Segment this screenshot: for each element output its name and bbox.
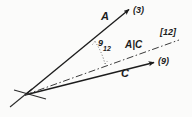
- ray-bisector-line: [25, 40, 179, 95]
- angle-arc-tick-lower: [105, 61, 108, 64]
- label-vector-A: A: [101, 11, 109, 22]
- label-bisector-endpoint: [12]: [160, 28, 176, 37]
- angle-arc-tick-upper: [93, 42, 96, 45]
- label-bisector: A|C: [125, 40, 142, 50]
- label-angle-subscript: 12: [103, 45, 111, 52]
- diagram-canvas: A (3) [12] A|C (9) C 9 12: [0, 0, 192, 117]
- label-vector-A-endpoint: (3): [133, 6, 144, 15]
- label-vector-C: C: [121, 68, 129, 79]
- label-vector-C-endpoint: (9): [158, 57, 169, 66]
